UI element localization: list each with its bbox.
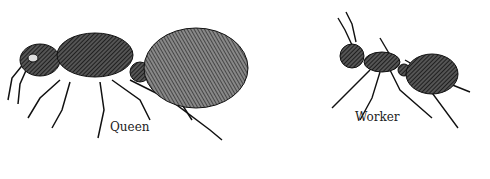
queen-label: Queen <box>110 120 150 134</box>
ants-drawing <box>0 0 490 179</box>
worker-label: Worker <box>355 110 400 124</box>
ant-illustration: Queen Worker <box>0 0 490 179</box>
